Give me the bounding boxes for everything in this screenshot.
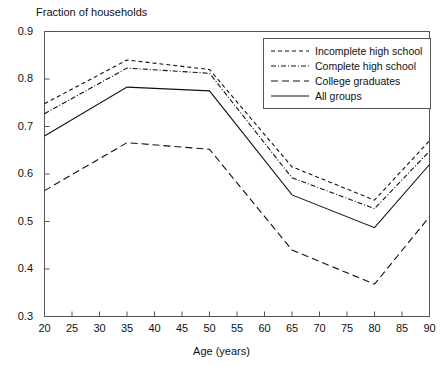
x-tick-label: 60 — [253, 323, 277, 334]
legend: Incomplete high school Complete high sch… — [263, 38, 431, 109]
legend-label: Complete high school — [315, 60, 416, 72]
x-tick-label: 50 — [198, 323, 222, 334]
x-tick-label: 85 — [390, 323, 414, 334]
x-tick-label: 65 — [280, 323, 304, 334]
y-tick-label: 0.3 — [5, 311, 33, 322]
x-tick-label: 45 — [170, 323, 194, 334]
chart-figure: Fraction of households 0.90.80.70.60.50.… — [0, 0, 443, 366]
y-axis-ticks — [45, 32, 50, 317]
legend-label: Incomplete high school — [315, 45, 422, 57]
y-tick-label: 0.5 — [5, 216, 33, 227]
legend-label: All groups — [315, 90, 362, 102]
y-tick-label: 0.4 — [5, 263, 33, 274]
legend-swatch-all-groups — [270, 90, 310, 102]
legend-label: College graduates — [315, 75, 400, 87]
y-tick-label: 0.8 — [5, 73, 33, 84]
y-tick-label: 0.6 — [5, 168, 33, 179]
x-tick-label: 40 — [143, 323, 167, 334]
x-tick-label: 80 — [363, 323, 387, 334]
x-tick-label: 30 — [88, 323, 112, 334]
legend-swatch-college-graduates — [270, 75, 310, 87]
x-axis-ticks — [45, 312, 430, 317]
x-axis-label: Age (years) — [0, 345, 443, 357]
legend-swatch-complete-high-school — [270, 60, 310, 72]
x-tick-label: 55 — [225, 323, 249, 334]
x-tick-label: 70 — [308, 323, 332, 334]
legend-item: Complete high school — [270, 58, 424, 73]
y-tick-label: 0.9 — [5, 26, 33, 37]
y-tick-label: 0.7 — [5, 121, 33, 132]
x-tick-label: 75 — [335, 323, 359, 334]
x-tick-label: 35 — [115, 323, 139, 334]
x-tick-label: 90 — [418, 323, 442, 334]
legend-item: Incomplete high school — [270, 43, 424, 58]
legend-item: All groups — [270, 88, 424, 103]
x-tick-label: 20 — [33, 323, 57, 334]
x-tick-label: 25 — [60, 323, 84, 334]
series-line-college-graduates — [45, 143, 430, 285]
legend-swatch-incomplete-high-school — [270, 45, 310, 57]
legend-item: College graduates — [270, 73, 424, 88]
